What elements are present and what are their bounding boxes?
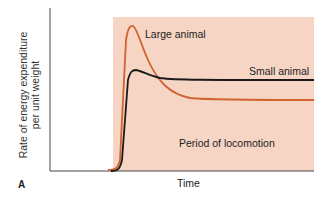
- y-axis-label-line1: Rate of energy expenditure: [17, 20, 29, 170]
- y-axis-label-line2: per unit weight: [29, 20, 41, 170]
- period-of-locomotion-label: Period of locomotion: [179, 138, 275, 149]
- large-animal-label: Large animal: [145, 29, 206, 40]
- panel-label: A: [18, 180, 25, 190]
- x-axis-label: Time: [177, 178, 200, 189]
- small-animal-label: Small animal: [249, 66, 309, 77]
- y-axis-label: Rate of energy expenditure per unit weig…: [17, 20, 41, 170]
